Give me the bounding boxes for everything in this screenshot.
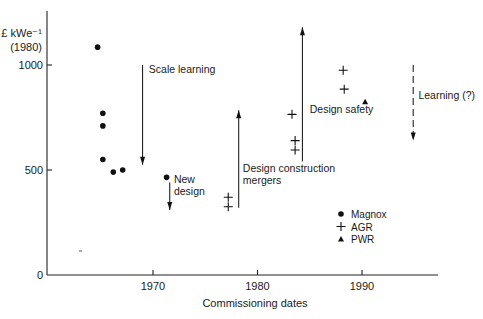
annotation-label: Design safety	[310, 103, 374, 115]
data-point-magnox	[100, 157, 106, 163]
data-point-magnox	[100, 111, 106, 117]
legend: MagnoxAGRPWR	[337, 209, 387, 245]
annotation-label: mergers	[243, 174, 282, 186]
data-point-pwr	[362, 99, 368, 105]
data-point-agr	[224, 193, 233, 202]
data-point-magnox	[95, 44, 101, 50]
y-tick-label: 1000	[19, 59, 43, 71]
y-tick-label: 500	[25, 164, 43, 176]
annotation-label: Design construction	[243, 162, 335, 174]
arrowhead	[167, 202, 172, 210]
y-axis-label: £ kWe⁻¹	[1, 27, 42, 39]
data-point-agr	[291, 136, 300, 145]
data-point-agr	[340, 85, 349, 94]
data-point-magnox	[120, 167, 126, 173]
y-axis-sublabel: (1980)	[10, 41, 42, 53]
arrowhead	[140, 157, 145, 165]
annotation-label: New	[174, 173, 195, 185]
legend-marker-agr	[337, 222, 346, 231]
data-point-agr	[287, 110, 296, 119]
chart-canvas: 19701980199005001000 Scale learningNewde…	[0, 0, 483, 319]
arrowhead	[236, 110, 241, 118]
x-tick-label: 1990	[350, 280, 374, 292]
x-tick-label: 1970	[141, 280, 165, 292]
x-axis-label: Commissioning dates	[202, 297, 308, 309]
data-point-magnox	[164, 175, 170, 181]
data-point-agr	[224, 202, 233, 211]
y-tick-label: 0	[37, 269, 43, 281]
data-points	[95, 44, 368, 211]
annotation-label: design	[174, 185, 205, 197]
data-point-agr	[291, 146, 300, 155]
legend-marker-pwr	[338, 236, 344, 242]
x-tick-label: 1980	[245, 280, 269, 292]
data-point-magnox	[110, 169, 116, 175]
arrowhead	[300, 27, 305, 35]
legend-label: PWR	[351, 234, 374, 245]
legend-label: AGR	[351, 222, 373, 233]
legend-label: Magnox	[351, 209, 387, 220]
annotation-label: Learning (?)	[418, 89, 475, 101]
arrowhead	[411, 133, 416, 141]
annotations: Scale learningNewdesignDesign constructi…	[140, 27, 475, 210]
axes: 19701980199005001000	[19, 11, 438, 292]
annotation-label: Scale learning	[149, 63, 216, 75]
data-point-agr	[339, 66, 348, 75]
legend-marker-magnox	[338, 211, 344, 217]
data-point-magnox	[100, 123, 106, 129]
